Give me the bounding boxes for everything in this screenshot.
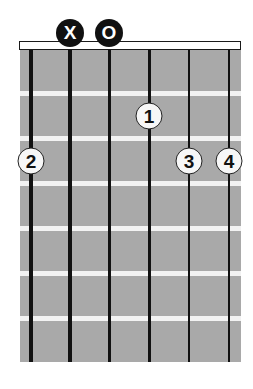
fret-line-5: [20, 271, 241, 276]
finger-marker-2: 2: [18, 148, 45, 175]
string-4: [148, 49, 151, 362]
fret-line-3: [20, 181, 241, 186]
finger-marker-4: 4: [216, 148, 243, 175]
fret-line-2: [20, 136, 241, 141]
fret-line-6: [20, 316, 241, 321]
string-5: [188, 49, 190, 362]
finger-marker-3: 3: [176, 148, 203, 175]
nut: [19, 41, 241, 50]
fret-line-1: [20, 91, 241, 96]
string-6: [228, 49, 230, 362]
muted-string-marker: X: [56, 19, 84, 47]
fret-line-4: [20, 226, 241, 231]
string-2: [68, 49, 72, 362]
finger-marker-1: 1: [136, 103, 163, 130]
open-string-marker: O: [95, 19, 123, 47]
string-1: [29, 49, 33, 362]
string-3: [108, 49, 111, 362]
